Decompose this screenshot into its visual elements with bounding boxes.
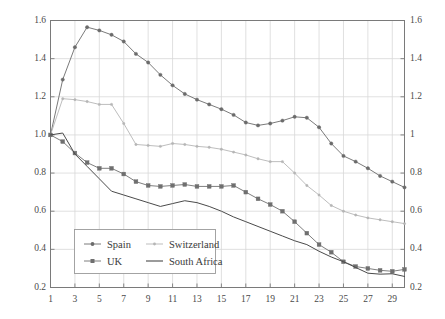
legend-label: Spain: [107, 239, 132, 250]
y-tick-right-3: 1: [410, 129, 438, 139]
x-tick-1: 3: [63, 294, 87, 304]
y-tick-right-5: 0.6: [410, 205, 438, 215]
y-tick-right-6: 0.4: [410, 243, 438, 253]
y-tick-right-1: 1.4: [410, 53, 438, 63]
x-tick-5: 11: [161, 294, 185, 304]
chart-legend: SpainSwitzerlandUKSouth Africa: [75, 230, 223, 274]
series-switzerland: [49, 97, 405, 224]
y-tick-left-7: 0.2: [18, 282, 46, 292]
x-tick-4: 9: [136, 294, 160, 304]
x-tick-3: 7: [112, 294, 136, 304]
x-tick-14: 29: [380, 294, 404, 304]
x-tick-6: 13: [185, 294, 209, 304]
y-tick-right-7: 0.2: [410, 282, 438, 292]
x-tick-12: 25: [331, 294, 355, 304]
x-tick-9: 19: [258, 294, 282, 304]
legend-label: UK: [107, 256, 123, 267]
y-tick-right-0: 1.6: [410, 15, 438, 25]
y-tick-right-4: 0.8: [410, 167, 438, 177]
x-tick-2: 5: [87, 294, 111, 304]
y-tick-left-5: 0.6: [18, 205, 46, 215]
x-tick-13: 27: [356, 294, 380, 304]
series-spain: [49, 25, 406, 189]
x-tick-11: 23: [307, 294, 331, 304]
x-tick-0: 1: [39, 294, 63, 304]
x-tick-8: 17: [234, 294, 258, 304]
x-tick-7: 15: [209, 294, 233, 304]
y-tick-left-2: 1.2: [18, 91, 46, 101]
line-chart-plot: SpainSwitzerlandUKSouth Africa: [0, 0, 445, 319]
legend-label: South Africa: [169, 256, 223, 267]
y-tick-left-1: 1.4: [18, 53, 46, 63]
x-tick-10: 21: [283, 294, 307, 304]
y-tick-left-3: 1.0: [18, 129, 46, 139]
y-tick-left-6: 0.4: [18, 243, 46, 253]
y-tick-left-0: 1.6: [18, 15, 46, 25]
chart-figure: Ratio of observed to implied variance Sp…: [0, 0, 445, 319]
legend-label: Switzerland: [169, 239, 220, 250]
y-tick-left-4: 0.8: [18, 167, 46, 177]
y-tick-right-2: 1.2: [410, 91, 438, 101]
